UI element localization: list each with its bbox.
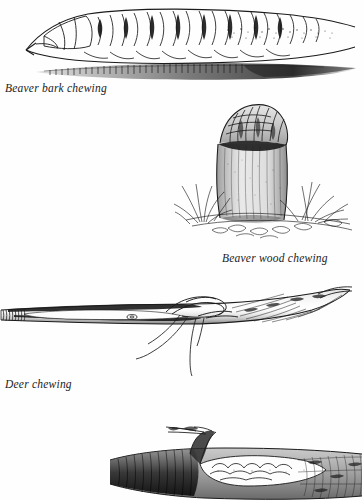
figure-deer-chewing [0,288,360,376]
beaver-chew-band-lower [84,49,290,59]
caption-beaver-bark-chewing: Beaver bark chewing [5,82,107,94]
caption-deer-chewing: Deer chewing [5,378,72,390]
cast-shadow-band [36,63,358,79]
ground-leaf-litter [212,219,342,238]
figure-unlabeled-branch-chewing [108,424,364,500]
illustration-plate: Beaver bark chewing [0,0,364,500]
grass-tuft-right [280,182,348,223]
stump-gnawed-crown [220,105,288,145]
branch-dark-bark-left [110,449,199,496]
figure-beaver-bark-chewing [14,2,359,80]
beaver-gouge-marks-upper [98,11,319,46]
caption-beaver-wood-chewing: Beaver wood chewing [222,252,328,264]
figure-beaver-wood-chewing [172,100,362,245]
